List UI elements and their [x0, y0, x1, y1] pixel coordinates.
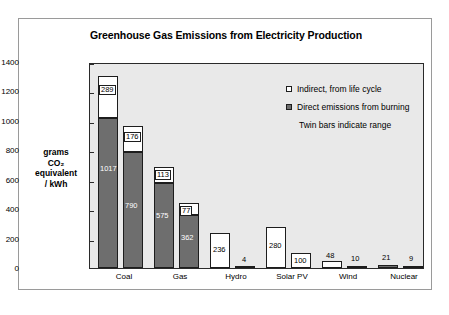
x-axis-label-solar-pv: Solar PV	[266, 272, 318, 281]
chart-frame: Greenhouse Gas Emissions from Electricit…	[18, 18, 432, 290]
bar-segment-indirect	[322, 261, 342, 268]
y-axis-title-line-1: grams	[43, 147, 69, 157]
y-axis-title-line-2: CO₂	[48, 158, 65, 168]
x-axis-label-hydro: Hydro	[210, 272, 262, 281]
bar-value-indirect: 280	[269, 242, 282, 250]
y-tick-label-1400: 1400	[0, 59, 19, 67]
bar-value-direct: 790	[125, 202, 138, 210]
bar-value-indirect: 48	[326, 252, 334, 260]
bar-group-coal: 289 1017 176 790 Coal	[98, 64, 150, 268]
bar-value-direct: 575	[156, 212, 169, 220]
y-tick-200	[89, 241, 94, 242]
bar-value-indirect: 100	[294, 257, 307, 265]
y-tick-800	[89, 152, 94, 153]
x-axis-label-wind: Wind	[322, 272, 374, 281]
y-tick-label-1000: 1000	[0, 118, 19, 126]
bar-segment-direct	[154, 183, 174, 268]
bar-group-solar-pv: 280 100 Solar PV	[266, 64, 318, 268]
bar-value-indirect: 10	[351, 255, 359, 263]
y-tick-label-0: 0	[0, 265, 19, 273]
y-axis-title-line-3: equivalent	[35, 168, 77, 178]
y-tick-1000	[89, 123, 94, 124]
y-axis-title-line-4: / kWh	[45, 179, 68, 189]
bar-value-indirect: 21	[382, 254, 390, 262]
x-axis-label-gas: Gas	[154, 272, 206, 281]
bar-group-nuclear: 21 9 Nuclear	[378, 64, 430, 268]
bar-value-indirect: 113	[155, 170, 171, 180]
bar-value-direct: 1017	[100, 165, 117, 173]
y-axis-title: grams CO₂ equivalent / kWh	[25, 147, 87, 189]
bar-value-indirect: 9	[409, 255, 413, 263]
y-tick-label-200: 200	[0, 236, 19, 244]
bar-segment-direct	[378, 265, 398, 268]
bar-value-direct: 362	[181, 234, 194, 242]
x-axis-label-coal: Coal	[98, 272, 150, 281]
bar-segment-indirect	[347, 266, 367, 268]
chart-title: Greenhouse Gas Emissions from Electricit…	[19, 29, 433, 41]
bar-value-indirect: 4	[242, 256, 246, 264]
y-tick-label-800: 800	[0, 147, 19, 155]
bar-segment-direct	[98, 118, 118, 268]
y-tick-1400	[89, 64, 94, 65]
bar-group-hydro: 236 4 Hydro	[210, 64, 262, 268]
y-tick-600	[89, 182, 94, 183]
bar-value-indirect: 289	[99, 85, 116, 95]
bar-value-indirect: 176	[124, 132, 141, 142]
bar-group-wind: 48 10 Wind	[322, 64, 374, 268]
x-axis-label-nuclear: Nuclear	[378, 272, 430, 281]
y-tick-label-1200: 1200	[0, 88, 19, 96]
bar-group-gas: 113 575 77 362 Gas	[154, 64, 206, 268]
bar-segment-indirect	[235, 266, 255, 268]
y-tick-label-600: 600	[0, 177, 19, 185]
y-tick-1200	[89, 93, 94, 94]
bar-segment-indirect	[98, 76, 118, 119]
bar-segment-direct	[403, 266, 423, 268]
y-tick-label-400: 400	[0, 206, 19, 214]
plot-area: Indirect, from life cycle Direct emissio…	[89, 63, 424, 269]
bar-value-indirect: 236	[213, 246, 226, 254]
bar-value-indirect: 77	[180, 206, 192, 216]
y-tick-400	[89, 211, 94, 212]
